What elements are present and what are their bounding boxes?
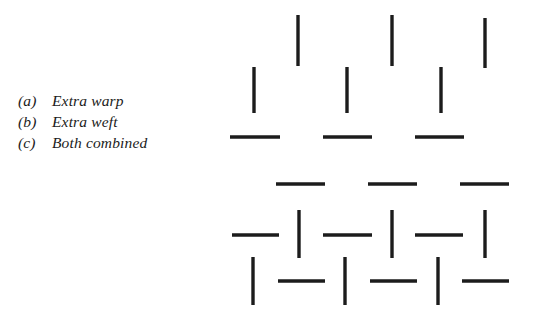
mark-group-extra-warp <box>254 15 485 113</box>
mark-group-both-combined <box>232 210 509 305</box>
figure-root: (a) Extra warp (b) Extra weft (c) Both c… <box>0 0 538 319</box>
mark-diagram-canvas <box>0 0 538 319</box>
mark-group-extra-weft <box>230 137 509 184</box>
mark-diagram <box>0 0 538 319</box>
